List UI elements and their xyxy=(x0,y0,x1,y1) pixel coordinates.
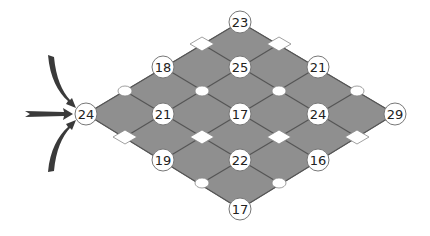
number-node: 29 xyxy=(384,103,406,125)
number-node: 19 xyxy=(152,149,174,171)
node-label: 24 xyxy=(310,107,327,122)
oval-marker-icon xyxy=(118,86,132,96)
arrow-from-bottom-icon xyxy=(48,120,76,172)
node-label: 24 xyxy=(78,107,95,122)
number-node: 23 xyxy=(229,11,251,33)
oval-marker-icon xyxy=(195,86,209,96)
node-label: 21 xyxy=(155,107,172,122)
number-node: 17 xyxy=(229,103,251,125)
node-label: 17 xyxy=(232,202,249,217)
node-label: 23 xyxy=(232,15,249,30)
node-label: 17 xyxy=(232,107,249,122)
node-label: 22 xyxy=(232,153,249,168)
oval-marker-icon xyxy=(272,178,286,188)
oval-marker-icon xyxy=(272,86,286,96)
node-label: 29 xyxy=(387,107,404,122)
node-label: 18 xyxy=(155,60,172,75)
number-grid-diagram: 23182521242117242919221617 xyxy=(0,0,430,236)
number-node: 24 xyxy=(75,103,97,125)
oval-marker-icon xyxy=(195,178,209,188)
arrow-from-top-icon xyxy=(48,55,76,108)
number-node: 18 xyxy=(152,56,174,78)
number-node: 16 xyxy=(307,149,329,171)
node-label: 21 xyxy=(310,60,327,75)
number-node: 17 xyxy=(229,198,251,220)
number-node: 25 xyxy=(229,56,251,78)
arrow-from-left-icon xyxy=(25,108,73,120)
node-label: 19 xyxy=(155,153,172,168)
number-node: 24 xyxy=(307,103,329,125)
number-node: 21 xyxy=(307,56,329,78)
node-label: 16 xyxy=(310,153,327,168)
number-node: 21 xyxy=(152,103,174,125)
entry-arrows xyxy=(25,55,76,172)
oval-marker-icon xyxy=(350,86,364,96)
node-label: 25 xyxy=(232,60,249,75)
number-node: 22 xyxy=(229,149,251,171)
